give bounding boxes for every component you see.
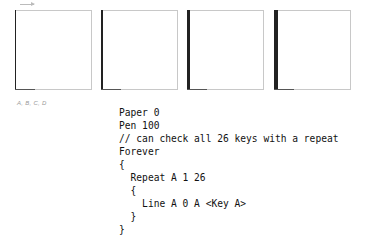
code-line: Pen 100 — [119, 119, 339, 132]
code-line: { — [119, 158, 339, 171]
code-line: Paper 0 — [119, 106, 339, 119]
arrow-icon — [20, 4, 34, 5]
panel-a — [15, 10, 92, 90]
bottom-line — [274, 89, 294, 90]
figure-caption: A, B, C, D — [17, 100, 47, 106]
code-line: { — [119, 184, 339, 197]
bottom-line — [187, 89, 207, 90]
left-line — [274, 10, 278, 90]
code-line: } — [119, 210, 339, 223]
left-line — [101, 10, 103, 90]
code-line: // can check all 26 keys with a repeat — [119, 132, 339, 145]
bottom-line — [15, 89, 35, 90]
bottom-line — [101, 89, 121, 90]
code-line: Forever — [119, 145, 339, 158]
panel-d — [274, 10, 351, 90]
left-line — [187, 10, 190, 90]
left-line — [15, 10, 16, 90]
code-line: Line A 0 A <Key A> — [119, 197, 339, 210]
code-block: Paper 0Pen 100// can check all 26 keys w… — [119, 106, 339, 236]
panel-b — [101, 10, 178, 90]
panel-c — [187, 10, 264, 90]
code-line: } — [119, 223, 339, 236]
code-line: Repeat A 1 26 — [119, 171, 339, 184]
